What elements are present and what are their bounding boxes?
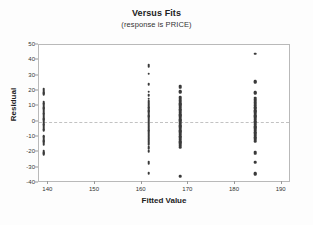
scatter-point [179,91,182,94]
scatter-point [42,93,45,96]
y-tick-label: 40 [28,56,35,62]
x-tick-mark [94,181,95,184]
scatter-point [42,153,45,156]
y-tick-label: -30 [26,164,35,170]
x-tick-label: 190 [276,186,286,192]
x-tick-label: 170 [182,186,192,192]
y-tick-label: -10 [26,133,35,139]
chart-subtitle: (response is PRICE) [0,20,313,29]
y-tick-label: 50 [28,41,35,47]
x-tick-label: 180 [229,186,239,192]
x-tick-mark [141,181,142,184]
plot-area [38,44,290,182]
y-tick-label: 10 [28,102,35,108]
scatter-point [179,175,182,178]
scatter-point [254,173,257,176]
x-tick-label: 140 [42,186,52,192]
y-tick-label: 30 [28,72,35,78]
scatter-point [147,90,150,93]
scatter-point [254,140,257,143]
x-tick-mark [187,181,188,184]
y-tick-label: -20 [26,148,35,154]
scatter-point [42,144,45,147]
scatter-point [147,94,150,97]
y-tick-label: -40 [26,179,35,185]
scatter-point [147,172,150,175]
x-axis-ticks: 140150160170180190 [38,184,290,196]
zero-reference-line [39,122,289,123]
chart-title: Versus Fits [0,8,313,18]
x-tick-label: 150 [89,186,99,192]
x-tick-mark [281,181,282,184]
x-axis-title: Fitted Value [38,196,290,205]
scatter-point [147,162,150,165]
x-tick-mark [47,181,48,184]
scatter-point [147,65,150,68]
x-tick-label: 160 [136,186,146,192]
y-tick-label: 20 [28,87,35,93]
scatter-point [254,92,257,95]
scatter-point [147,83,150,86]
scatter-point [179,146,182,149]
y-axis-title: Residual [9,75,18,135]
scatter-point [147,73,150,76]
scatter-point [254,152,257,155]
scatter-point [254,81,257,84]
scatter-point [254,53,257,56]
scatter-point [42,129,45,132]
scatter-point [147,150,150,153]
versus-fits-chart: Versus Fits (response is PRICE) 50403020… [0,0,313,225]
scatter-point [179,86,182,89]
scatter-point [254,161,257,164]
x-tick-mark [234,181,235,184]
